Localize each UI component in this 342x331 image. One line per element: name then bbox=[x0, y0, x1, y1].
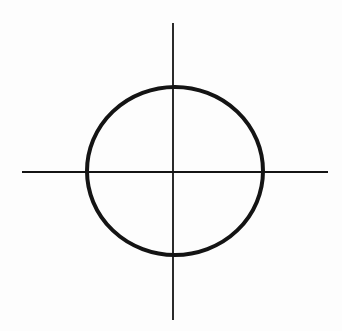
crosshair-diagram bbox=[0, 0, 342, 331]
crosshair-icon bbox=[0, 0, 342, 331]
target-circle bbox=[87, 87, 263, 255]
